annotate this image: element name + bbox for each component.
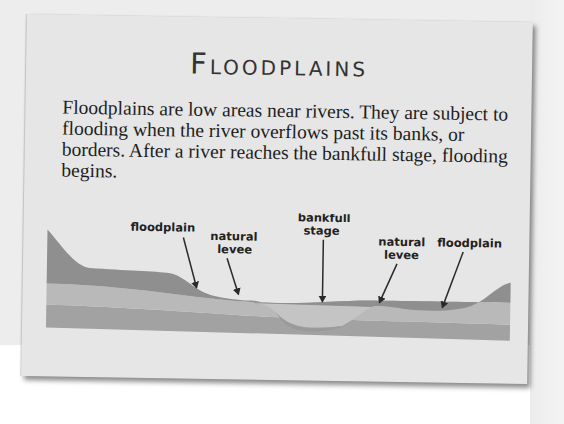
background-side <box>530 0 564 424</box>
label-levee-left-line2: levee <box>217 242 252 257</box>
label-floodplain-right: floodplain <box>437 236 502 251</box>
arrow-bankfull <box>322 240 323 302</box>
label-bankfull-line2: stage <box>303 223 340 238</box>
arrow-levee-right <box>379 264 397 303</box>
label-levee-right-line2: levee <box>384 248 419 263</box>
card-body-text: Floodplains are low areas near rivers. T… <box>61 97 522 188</box>
label-floodplain-left: floodplain <box>130 220 195 235</box>
floodplain-diagram: floodplain natural levee bankfull stage … <box>44 209 516 346</box>
card-title: Floodplains <box>26 44 532 86</box>
arrow-levee-left <box>226 258 239 294</box>
floodplains-card: Floodplains Floodplains are low areas ne… <box>21 14 533 384</box>
arrow-floodplain-right <box>442 252 463 308</box>
